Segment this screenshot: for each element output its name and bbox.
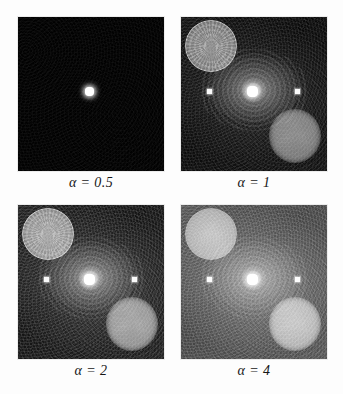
brain-anatomy-texture	[106, 297, 158, 351]
brain-anatomy-texture	[269, 297, 321, 351]
panel-caption: α = 0.5	[18, 175, 164, 191]
satellite-point-left	[207, 89, 212, 94]
panel-image-alpha-0-5	[18, 17, 164, 171]
satellite-point-left	[207, 277, 212, 282]
panel-image-alpha-1	[181, 17, 327, 171]
brain-anatomy-texture	[269, 109, 321, 163]
panel-caption: α = 1	[181, 175, 327, 191]
center-point	[84, 274, 95, 285]
blurred-disc-bottom-right	[269, 297, 321, 351]
panel-caption-text: α = 2	[75, 363, 108, 378]
panel-image-alpha-2	[18, 205, 164, 359]
panel-caption-text: α = 4	[238, 363, 271, 378]
center-point	[247, 274, 258, 285]
blurred-disc-bottom-right	[269, 109, 321, 163]
panel-caption-text: α = 0.5	[69, 175, 113, 190]
panel-caption-text: α = 1	[238, 175, 271, 190]
panel-caption: α = 4	[181, 363, 327, 379]
satellite-point-right	[295, 277, 300, 282]
satellite-point-left	[44, 277, 49, 282]
center-point	[85, 87, 94, 96]
brain-anatomy-texture	[106, 109, 158, 163]
center-point	[247, 86, 258, 97]
satellite-point-right	[295, 89, 300, 94]
satellite-point-right	[132, 277, 137, 282]
blurred-disc-bottom-right	[106, 297, 158, 351]
figure-container: α = 0.5	[0, 0, 343, 394]
panel-image-alpha-4	[181, 205, 327, 359]
panel-grid: α = 0.5	[0, 0, 343, 394]
panel-caption: α = 2	[18, 363, 164, 379]
